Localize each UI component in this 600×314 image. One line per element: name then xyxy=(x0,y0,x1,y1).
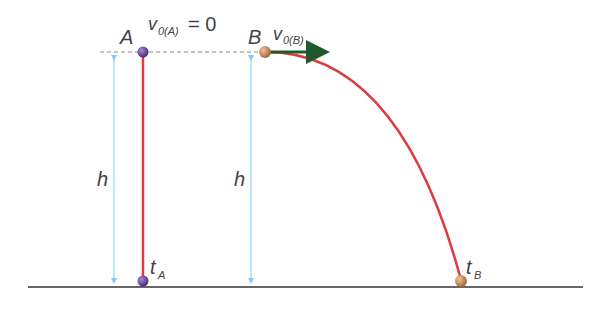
velocity-a-symbol: v xyxy=(148,14,158,34)
projectile-diagram: A v 0(A) = 0 B v 0(B) t A t B h h xyxy=(0,0,600,314)
velocity-a-subscript: 0(A) xyxy=(158,25,179,37)
velocity-b-subscript: 0(B) xyxy=(283,34,304,46)
ball-a-bottom xyxy=(138,276,149,287)
time-a-subscript: A xyxy=(157,269,165,281)
height-label-left: h xyxy=(97,168,108,190)
label-a: A xyxy=(119,26,133,48)
time-a-symbol: t xyxy=(150,256,157,278)
ball-a-top xyxy=(138,47,149,58)
trajectory-b xyxy=(266,52,461,280)
label-b: B xyxy=(248,26,261,48)
time-b-subscript: B xyxy=(474,269,481,281)
time-b-symbol: t xyxy=(466,256,473,278)
height-label-right: h xyxy=(234,168,245,190)
velocity-b-symbol: v xyxy=(273,24,283,44)
velocity-a-equation: = 0 xyxy=(188,13,216,35)
